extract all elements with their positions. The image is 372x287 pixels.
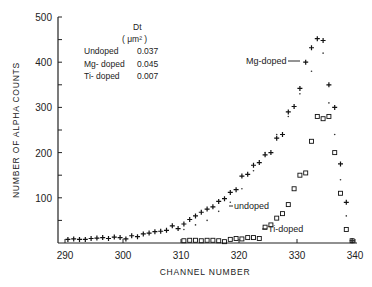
annotation-undoped: undoped bbox=[234, 201, 269, 211]
x-axis-label: CHANNEL NUMBER bbox=[160, 267, 251, 277]
x-tick-label: 290 bbox=[57, 250, 74, 261]
legend-unit: ( μm² ) bbox=[122, 34, 147, 44]
y-axis-label: NUMBER OF ALPHA COUNTS bbox=[11, 62, 21, 198]
annotation-mg-doped: Mg-doped bbox=[246, 56, 287, 66]
scatter-chart: 100200300400500290300310320330340CHANNEL… bbox=[0, 0, 372, 287]
series-undoped bbox=[183, 52, 353, 241]
y-tick-label: 100 bbox=[35, 193, 52, 204]
x-tick-label: 340 bbox=[347, 250, 364, 261]
legend-row-value: 0.037 bbox=[137, 46, 159, 56]
annotations: Mg-dopedundopedTi-doped bbox=[229, 56, 303, 234]
legend-row-label: Ti- doped bbox=[84, 71, 120, 81]
x-tick-label: 310 bbox=[173, 250, 190, 261]
legend-row-label: Undoped bbox=[84, 46, 119, 56]
axes: 100200300400500290300310320330340CHANNEL… bbox=[11, 12, 364, 277]
y-tick-label: 300 bbox=[35, 102, 52, 113]
legend-row-value: 0.007 bbox=[137, 71, 159, 81]
chart-container: 100200300400500290300310320330340CHANNEL… bbox=[0, 0, 372, 287]
legend-row-value: 0.045 bbox=[137, 59, 159, 69]
x-tick-label: 300 bbox=[115, 250, 132, 261]
y-tick-label: 500 bbox=[35, 12, 52, 23]
annotation-ti-doped: Ti-doped bbox=[268, 224, 303, 234]
y-tick-label: 200 bbox=[35, 148, 52, 159]
legend-header: Dt bbox=[133, 22, 142, 32]
legend-row-label: Mg- doped bbox=[84, 59, 125, 69]
x-tick-label: 320 bbox=[231, 250, 248, 261]
x-tick-label: 330 bbox=[289, 250, 306, 261]
y-tick-label: 400 bbox=[35, 57, 52, 68]
